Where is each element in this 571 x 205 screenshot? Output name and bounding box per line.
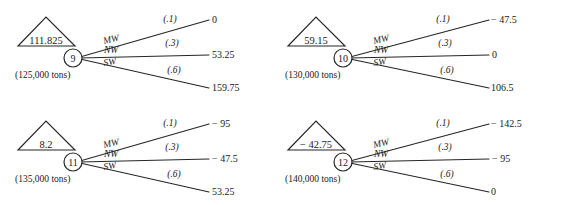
panel-10-triangle-value: 59.15 bbox=[304, 35, 328, 46]
panel-12-branch-sw-line bbox=[350, 163, 489, 192]
panel-10-branch-label-nw: NW bbox=[373, 45, 389, 55]
panel-12: − 42.75 (140,000 tons) 12 MW NW SW (.1) … bbox=[285, 118, 522, 197]
panel-10-payoff-sw: 106.5 bbox=[491, 82, 514, 93]
panel-9-prob-mw: (.1) bbox=[163, 14, 176, 25]
panel-11-branch-label-nw: NW bbox=[103, 149, 119, 159]
panel-11-branch-nw-line bbox=[80, 159, 209, 162]
panel-12-payoff-mw: − 142.5 bbox=[491, 118, 522, 129]
decision-tree-canvas: 111.825 (125,000 tons) 9 MW NW SW (.1) (… bbox=[0, 0, 571, 205]
panel-12-triangle-value: − 42.75 bbox=[300, 139, 332, 150]
panel-12-payoff-nw: − 95 bbox=[492, 153, 510, 164]
panel-11-prob-sw: (.6) bbox=[167, 169, 180, 180]
panel-11-payoff-mw: − 95 bbox=[212, 118, 230, 129]
panel-11-payoff-sw: 53.25 bbox=[212, 186, 235, 197]
panel-10-branch-sw-line bbox=[350, 59, 489, 88]
panel-9: 111.825 (125,000 tons) 9 MW NW SW (.1) (… bbox=[15, 14, 240, 93]
panel-10-branch-mw-line bbox=[350, 20, 489, 57]
panel-11: 8.2 (135,000 tons) 11 MW NW SW (.1) (.3)… bbox=[15, 118, 238, 197]
panel-12-prob-mw: (.1) bbox=[436, 118, 449, 129]
panel-11-node-number: 11 bbox=[68, 157, 78, 168]
panel-9-prob-nw: (.3) bbox=[165, 38, 178, 49]
panel-12-node-number: 12 bbox=[338, 157, 348, 168]
panel-9-payoff-mw: 0 bbox=[212, 14, 217, 25]
panel-10: 59.15 (130,000 tons) 10 MW NW SW (.1) (.… bbox=[285, 14, 517, 93]
panel-11-branch-mw-line bbox=[80, 124, 209, 161]
panel-10-node-number: 10 bbox=[338, 53, 348, 64]
panel-12-tons-label: (140,000 tons) bbox=[285, 174, 340, 185]
panel-9-node-number: 9 bbox=[71, 53, 76, 64]
panel-9-prob-sw: (.6) bbox=[167, 65, 180, 76]
panel-9-triangle-value: 111.825 bbox=[29, 35, 62, 46]
panel-9-payoff-sw: 159.75 bbox=[212, 82, 240, 93]
panel-11-triangle-value: 8.2 bbox=[39, 139, 52, 150]
panel-10-prob-nw: (.3) bbox=[438, 38, 451, 49]
panel-10-branch-nw-line bbox=[350, 55, 489, 58]
panel-12-branch-mw-line bbox=[350, 124, 489, 161]
panel-11-tons-label: (135,000 tons) bbox=[15, 174, 70, 185]
panel-11-payoff-nw: − 47.5 bbox=[212, 153, 238, 164]
panel-10-payoff-nw: 0 bbox=[492, 49, 497, 60]
panel-9-tons-label: (125,000 tons) bbox=[15, 70, 70, 81]
panel-10-prob-mw: (.1) bbox=[436, 14, 449, 25]
panel-11-prob-mw: (.1) bbox=[163, 118, 176, 129]
panel-11-branch-sw-line bbox=[80, 163, 209, 192]
panel-10-prob-sw: (.6) bbox=[440, 65, 453, 76]
decision-tree-diagram: 111.825 (125,000 tons) 9 MW NW SW (.1) (… bbox=[0, 0, 571, 205]
panel-11-prob-nw: (.3) bbox=[165, 142, 178, 153]
panel-11-branch-label-sw: SW bbox=[103, 160, 118, 172]
panel-10-tons-label: (130,000 tons) bbox=[285, 70, 340, 81]
panel-12-branch-nw-line bbox=[350, 159, 489, 162]
panel-9-branch-nw-line bbox=[80, 55, 209, 58]
panel-12-branch-label-nw: NW bbox=[373, 149, 389, 159]
panel-9-branch-sw-line bbox=[80, 59, 209, 88]
panel-10-payoff-mw: − 47.5 bbox=[491, 14, 517, 25]
panel-12-prob-nw: (.3) bbox=[438, 142, 451, 153]
panel-9-branch-label-sw: SW bbox=[103, 56, 118, 68]
panel-12-payoff-sw: 0 bbox=[491, 186, 496, 197]
panel-9-branch-label-nw: NW bbox=[103, 45, 119, 55]
panel-9-branch-mw-line bbox=[80, 20, 209, 57]
panel-9-payoff-nw: 53.25 bbox=[212, 49, 235, 60]
panel-12-prob-sw: (.6) bbox=[440, 169, 453, 180]
